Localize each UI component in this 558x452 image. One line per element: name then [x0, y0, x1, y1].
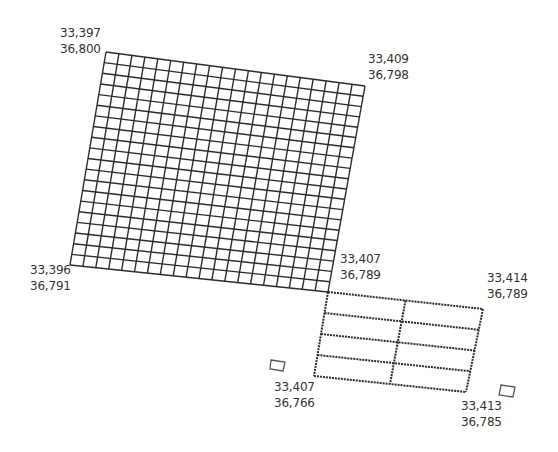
longitude-value: 36,766 — [274, 395, 315, 411]
latitude-value: 33,407 — [340, 251, 381, 267]
grid-line — [104, 63, 363, 97]
latitude-value: 33,414 — [487, 270, 528, 286]
longitude-value: 36,800 — [60, 41, 101, 57]
latitude-value: 33,396 — [30, 262, 71, 278]
latitude-value: 33,413 — [461, 398, 502, 414]
grid-line — [72, 254, 330, 281]
latitude-value: 33,409 — [368, 51, 409, 67]
marker-square-left-icon — [270, 360, 285, 371]
grid-line — [318, 355, 471, 371]
marker-square-right-icon — [499, 385, 515, 397]
longitude-value: 36,789 — [340, 267, 381, 283]
latitude-value: 33,397 — [60, 25, 101, 41]
grid-line — [74, 244, 332, 272]
label-junction: 33,407 36,789 — [340, 251, 381, 283]
longitude-value: 36,785 — [461, 414, 502, 430]
grid-line — [70, 265, 328, 292]
label-large-top-right: 33,409 36,798 — [368, 51, 409, 83]
label-large-bottom-left: 33,396 36,791 — [30, 262, 71, 294]
label-small-top-right: 33,414 36,789 — [487, 270, 528, 302]
large-grid — [70, 52, 365, 292]
small-grid — [314, 292, 483, 392]
latitude-value: 33,407 — [274, 379, 315, 395]
longitude-value: 36,791 — [30, 278, 71, 294]
grid-line — [106, 52, 365, 86]
grid-line — [314, 376, 466, 392]
longitude-value: 36,789 — [487, 286, 528, 302]
grid-line — [101, 84, 360, 117]
label-small-bottom-left: 33,407 36,766 — [274, 379, 315, 411]
grid-line — [102, 73, 361, 106]
label-small-bottom-right: 33,413 36,785 — [461, 398, 502, 430]
label-large-top-left: 33,397 36,800 — [60, 25, 101, 57]
grid-line — [75, 233, 333, 261]
longitude-value: 36,798 — [368, 67, 409, 83]
